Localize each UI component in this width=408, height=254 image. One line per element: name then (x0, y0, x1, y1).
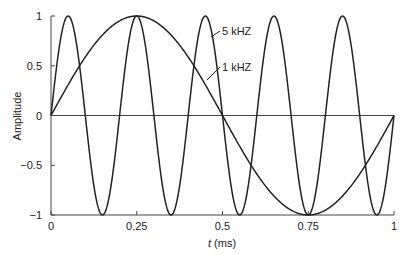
y-tick-label: 1 (36, 10, 42, 22)
x-axis-label-unit: (ms) (211, 237, 236, 249)
y-tick-label: 0 (36, 110, 42, 122)
x-tick-label: 0 (48, 220, 54, 232)
x-tick-label: 1 (391, 220, 397, 232)
y-tick-label: −0.5 (20, 159, 42, 171)
y-tick-label: −1 (29, 209, 42, 221)
y-tick-label: 0.5 (27, 60, 42, 72)
chart: 10.50−0.5−100.250.50.751 5 kHZ 1 kHZ Amp… (0, 0, 408, 254)
y-axis-label: Amplitude (11, 92, 23, 141)
x-tick-label: 0.5 (215, 220, 230, 232)
x-axis-label: t (ms) (208, 237, 236, 249)
x-tick-label: 0.25 (126, 220, 147, 232)
annotation-1khz: 1 kHZ (222, 61, 252, 73)
annotations: 5 kHZ 1 kHZ (207, 25, 252, 80)
x-tick-label: 0.75 (298, 220, 319, 232)
annotation-5khz: 5 kHZ (222, 25, 252, 37)
